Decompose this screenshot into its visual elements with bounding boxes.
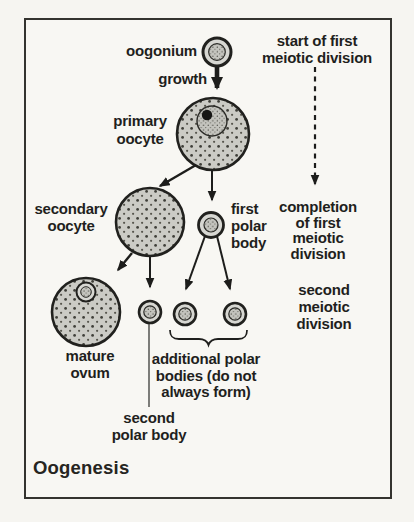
- scanned-textbook-page: oogonium growth primary oocyte secondary…: [0, 0, 414, 522]
- label-mature-ovum: mature ovum: [40, 348, 140, 381]
- label-secondary-oocyte: secondary oocyte: [21, 200, 121, 234]
- label-growth: growth: [107, 71, 207, 88]
- label-second-meiotic-division: second meiotic division: [274, 281, 374, 332]
- label-additional-polar-bodies: additional polar bodies (do not always f…: [136, 351, 276, 401]
- figure-title: Oogenesis: [33, 457, 129, 479]
- label-start-first-meiotic-division: start of first meiotic division: [247, 33, 387, 66]
- label-primary-oocyte: primary oocyte: [90, 112, 190, 147]
- label-oogonium: oogonium: [97, 43, 197, 60]
- label-completion-first-meiotic-division: completion of first meiotic division: [268, 199, 368, 262]
- label-second-polar-body: second polar body: [99, 410, 199, 443]
